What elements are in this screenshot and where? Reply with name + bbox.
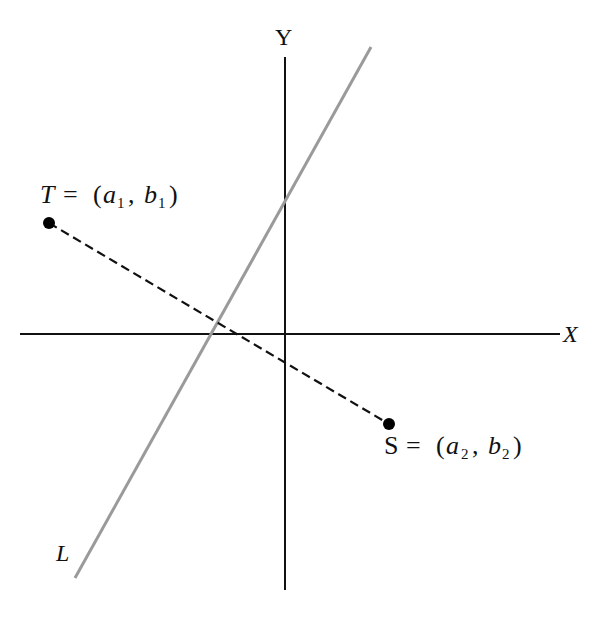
point-s-dot: [383, 418, 395, 430]
point-t-label: T = ( a 1 , b 1 ): [40, 180, 178, 211]
svg-text:2: 2: [461, 446, 469, 462]
svg-text:(: (: [93, 180, 102, 209]
svg-text:S: S: [384, 431, 398, 460]
svg-text:=: =: [63, 180, 78, 209]
x-axis-label: X: [562, 321, 579, 347]
point-t-dot: [43, 217, 55, 229]
svg-text:1: 1: [158, 195, 166, 211]
segment-ts: [49, 223, 389, 424]
svg-text:a: a: [103, 180, 116, 209]
svg-text:(: (: [436, 431, 445, 460]
svg-text:,: ,: [128, 180, 135, 209]
svg-text:1: 1: [117, 195, 125, 211]
point-s-label: S = ( a 2 , b 2 ): [384, 431, 522, 462]
svg-text:,: ,: [472, 431, 479, 460]
svg-text:2: 2: [502, 446, 510, 462]
svg-text:b: b: [144, 180, 157, 209]
line-l-label: L: [55, 540, 69, 566]
reflection-diagram: Y X L T = ( a 1 , b 1 ) S = ( a 2 , b 2 …: [0, 0, 601, 617]
svg-text:): ): [513, 431, 522, 460]
svg-text:b: b: [488, 431, 501, 460]
line-l: [75, 47, 371, 578]
svg-text:T: T: [40, 180, 56, 209]
y-axis-label: Y: [275, 24, 292, 50]
svg-text:=: =: [406, 431, 421, 460]
svg-text:a: a: [446, 431, 459, 460]
svg-text:): ): [169, 180, 178, 209]
